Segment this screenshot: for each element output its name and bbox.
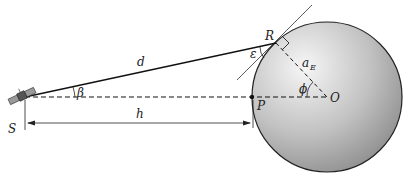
nadir-point-dot [250, 95, 254, 99]
diagram-canvas: S d h P R O a E β ε ϕ [0, 0, 409, 182]
beta-arc [73, 87, 75, 97]
label-o: O [330, 91, 340, 105]
arrowhead-right-icon [243, 121, 251, 126]
label-a-subscript: E [309, 63, 316, 72]
label-h: h [136, 107, 144, 121]
label-p: P [256, 99, 266, 113]
label-s: S [8, 122, 16, 136]
label-d: d [137, 55, 145, 69]
label-phi: ϕ [299, 82, 307, 96]
label-a: a [302, 56, 309, 70]
label-beta: β [76, 86, 84, 100]
label-r: R [264, 29, 274, 43]
satellite-icon [6, 83, 36, 106]
slant-range-line [25, 43, 276, 97]
arrowhead-left-icon [27, 121, 35, 126]
label-epsilon: ε [250, 47, 256, 61]
